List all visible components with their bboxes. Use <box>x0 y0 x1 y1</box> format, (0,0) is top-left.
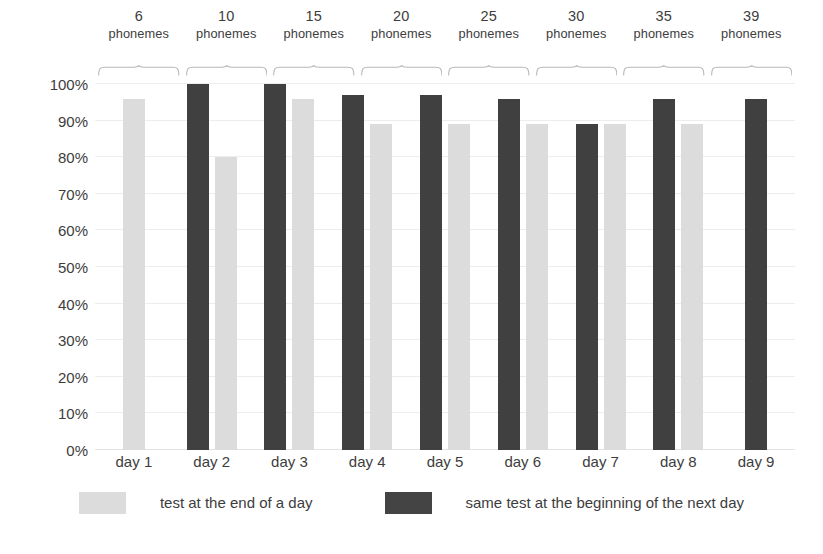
phoneme-group-bracket: 25phonemes <box>445 8 533 76</box>
bar-end-of-day <box>292 99 314 450</box>
x-axis-category-label: day 6 <box>504 452 541 472</box>
y-axis-tick-label: 100% <box>50 76 88 93</box>
bar-end-of-day <box>370 124 392 450</box>
phoneme-group-unit: phonemes <box>721 26 782 42</box>
x-axis-category-labels: day 1day 2day 3day 4day 5day 6day 7day 8… <box>95 452 795 478</box>
phoneme-group-unit: phonemes <box>546 26 607 42</box>
curly-brace-icon <box>711 65 793 76</box>
plot-area <box>95 84 795 450</box>
curly-brace-icon <box>361 65 443 76</box>
x-axis-category-label: day 7 <box>582 452 619 472</box>
legend-item-end-of-day: test at the end of a day <box>79 492 313 514</box>
y-axis-tick-label: 70% <box>58 185 88 202</box>
bar-end-of-day <box>215 157 237 450</box>
phoneme-group-bracket: 39phonemes <box>708 8 796 76</box>
curly-brace-icon <box>448 65 530 76</box>
phoneme-group-unit: phonemes <box>283 26 344 42</box>
bar-beginning-next-day <box>745 99 767 450</box>
y-axis-tick-label: 30% <box>58 332 88 349</box>
phoneme-group-bracket: 35phonemes <box>620 8 708 76</box>
figure-caption <box>0 546 823 554</box>
phoneme-group-count: 15 <box>306 8 322 25</box>
phoneme-group-count: 30 <box>568 8 584 25</box>
phoneme-group-bracket: 10phonemes <box>183 8 271 76</box>
phoneme-group-count: 20 <box>393 8 409 25</box>
phoneme-group-bracket: 15phonemes <box>270 8 358 76</box>
bar-beginning-next-day <box>576 124 598 450</box>
phoneme-retention-bar-chart: 6phonemes10phonemes15phonemes20phonemes2… <box>0 0 823 554</box>
legend-label-end-of-day: test at the end of a day <box>160 493 313 513</box>
phoneme-group-count: 35 <box>656 8 672 25</box>
curly-brace-icon <box>98 65 180 76</box>
y-axis-tick-label: 90% <box>58 112 88 129</box>
x-axis-category-label: day 8 <box>660 452 697 472</box>
phoneme-group-unit: phonemes <box>458 26 519 42</box>
bar-beginning-next-day <box>264 84 286 450</box>
x-axis-category-label: day 1 <box>116 452 153 472</box>
bar-end-of-day <box>604 124 626 450</box>
chart-legend: test at the end of a day same test at th… <box>0 489 823 517</box>
phoneme-group-bracket: 30phonemes <box>533 8 621 76</box>
phoneme-group-bracket: 20phonemes <box>358 8 446 76</box>
x-axis-category-label: day 9 <box>738 452 775 472</box>
bar-series-container <box>95 84 795 450</box>
curly-brace-icon <box>536 65 618 76</box>
bar-end-of-day <box>448 124 470 450</box>
legend-item-beginning-next-day: same test at the beginning of the next d… <box>385 492 745 514</box>
y-axis-tick-label: 50% <box>58 259 88 276</box>
y-axis-tick-label: 80% <box>58 149 88 166</box>
curly-brace-icon <box>273 65 355 76</box>
bar-beginning-next-day <box>187 84 209 450</box>
bar-beginning-next-day <box>342 95 364 450</box>
curly-brace-icon <box>186 65 268 76</box>
x-axis-category-label: day 2 <box>193 452 230 472</box>
y-axis-tick-label: 60% <box>58 222 88 239</box>
y-axis-tick-label: 10% <box>58 405 88 422</box>
bar-beginning-next-day <box>420 95 442 450</box>
x-axis-category-label: day 4 <box>349 452 386 472</box>
y-axis-tick-label: 40% <box>58 295 88 312</box>
legend-swatch-dark <box>385 492 432 514</box>
bar-end-of-day <box>681 124 703 450</box>
phoneme-group-unit: phonemes <box>633 26 694 42</box>
x-axis-category-label: day 3 <box>271 452 308 472</box>
bar-beginning-next-day <box>653 99 675 450</box>
phoneme-group-count: 6 <box>135 8 143 25</box>
legend-swatch-light <box>79 492 126 514</box>
phoneme-group-bracket-row: 6phonemes10phonemes15phonemes20phonemes2… <box>95 8 795 76</box>
y-axis-tick-labels: 0%10%20%30%40%50%60%70%80%90%100% <box>14 84 88 450</box>
phoneme-group-count: 25 <box>481 8 497 25</box>
y-axis-tick-label: 20% <box>58 368 88 385</box>
legend-label-beginning-next-day: same test at the beginning of the next d… <box>466 493 745 513</box>
phoneme-group-bracket: 6phonemes <box>95 8 183 76</box>
phoneme-group-count: 10 <box>218 8 234 25</box>
x-axis-category-label: day 5 <box>427 452 464 472</box>
bar-end-of-day <box>123 99 145 450</box>
y-axis-tick-label: 0% <box>66 442 88 459</box>
phoneme-group-unit: phonemes <box>108 26 169 42</box>
phoneme-group-unit: phonemes <box>371 26 432 42</box>
phoneme-group-unit: phonemes <box>196 26 257 42</box>
phoneme-group-count: 39 <box>743 8 759 25</box>
bar-beginning-next-day <box>498 99 520 450</box>
bar-end-of-day <box>526 124 548 450</box>
curly-brace-icon <box>623 65 705 76</box>
